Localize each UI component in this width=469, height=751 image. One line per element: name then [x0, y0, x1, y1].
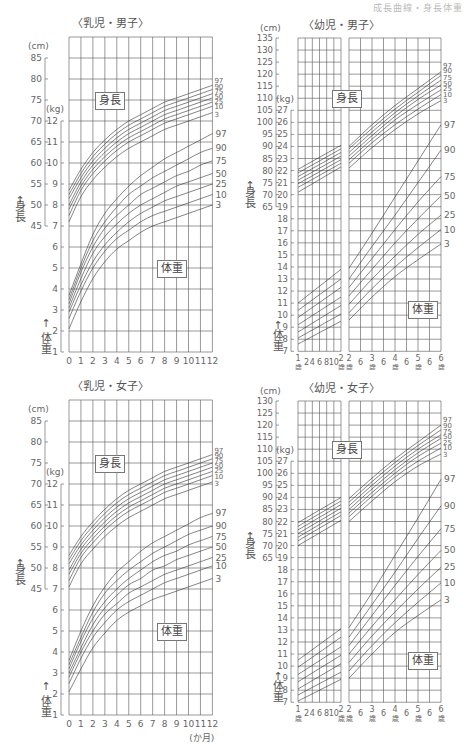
weight-percentile-label: 25	[215, 179, 226, 189]
weight-tick: 4	[52, 284, 58, 294]
weight-percentile-label: 10	[215, 561, 227, 571]
cm-unit-label: (cm)	[260, 23, 281, 33]
weight-percentile-label: 3	[215, 200, 221, 210]
height-tick: 125	[257, 408, 273, 418]
weight-tick: 22	[277, 166, 288, 176]
age-tick: 5	[415, 354, 420, 363]
height-tick: 90	[262, 492, 273, 502]
age-tick-unit: 歳	[295, 363, 302, 370]
height-tick: 100	[257, 117, 273, 127]
weight-axis-title: 体 重	[272, 681, 284, 703]
weight-tick: 13	[277, 274, 288, 284]
age-tick: 4	[392, 354, 397, 363]
weight-tick: 10	[47, 158, 59, 168]
weight-tick: 8	[52, 200, 58, 210]
weight-percentile-label: 10	[215, 190, 227, 200]
weight-tick: 15	[277, 601, 288, 611]
weight-percentile-label: 50	[444, 545, 456, 555]
weight-percentile-label: 10	[444, 225, 456, 235]
height-tick: 65	[262, 553, 273, 563]
months-unit-label: (か月)	[189, 733, 214, 743]
age-tick-unit: 歳	[346, 363, 353, 370]
month-tick: 5	[126, 356, 132, 366]
chart-title: 〈幼児・女子〉	[303, 379, 380, 395]
month-tick: 6	[358, 358, 363, 367]
weight-tick: 19	[277, 553, 288, 563]
month-tick: 8	[162, 356, 168, 366]
weight-tick: 11	[277, 649, 288, 659]
weight-tick: 19	[277, 202, 288, 212]
height-tick: 75	[31, 458, 42, 468]
month-tick: 12	[207, 719, 218, 729]
height-tick: 115	[257, 81, 273, 91]
weight-tick: 6	[52, 242, 58, 252]
weight-axis-title: 体 重	[40, 333, 52, 355]
height-tick: 80	[262, 517, 273, 527]
weight-tick: 10	[47, 521, 59, 531]
month-tick: 6	[427, 358, 432, 367]
height-tick: 70	[31, 116, 43, 126]
weight-tick: 12	[47, 479, 58, 489]
month-tick: 6	[381, 358, 386, 367]
height-tick: 105	[257, 105, 273, 115]
weight-percentile-label: 97	[444, 474, 455, 484]
height-tick: 85	[262, 154, 273, 164]
weight-tick: 25	[277, 480, 288, 490]
weight-axis-title: 体 重	[272, 330, 284, 352]
weight-label-box: 体重	[408, 652, 438, 670]
weight-tick: 1	[52, 347, 58, 357]
height-tick: 65	[262, 202, 273, 212]
month-tick: 6	[358, 709, 363, 718]
age-tick: 2	[346, 705, 351, 714]
month-tick: 9	[174, 356, 180, 366]
height-tick: 115	[257, 432, 273, 442]
weight-percentile-label: 75	[215, 156, 226, 166]
weight-tick: 25	[277, 129, 288, 139]
age-tick-unit: 歳	[369, 363, 376, 370]
height-tick: 75	[31, 95, 42, 105]
kg-unit-label: (kg)	[276, 445, 294, 455]
height-tick: 85	[262, 504, 273, 514]
weight-tick: 3	[52, 305, 58, 315]
weight-tick: 13	[277, 625, 288, 635]
weight-tick: 16	[277, 238, 288, 248]
kg-unit-label: (kg)	[46, 467, 64, 477]
chart-title: 〈幼児・男子〉	[303, 16, 380, 32]
weight-label-box: 体重	[157, 623, 187, 641]
weight-axis-title: 体 重	[40, 696, 52, 718]
weight-tick: 26	[277, 468, 288, 478]
height-tick: 135	[257, 33, 273, 43]
weight-tick: 27	[277, 105, 288, 115]
weight-tick: 17	[277, 226, 288, 236]
chart-infant-girls: 4550556065707580851234567891011120123456…	[0, 383, 235, 751]
height-tick: 120	[257, 420, 273, 430]
month-tick: 8	[162, 719, 168, 729]
age-tick-unit: 歳	[415, 363, 422, 370]
height-tick: 120	[257, 69, 273, 79]
height-tick: 130	[257, 396, 273, 406]
weight-tick: 9	[52, 179, 58, 189]
chart-title: 〈乳児・女子〉	[72, 377, 149, 393]
age-tick: 1	[295, 705, 300, 714]
weight-percentile-label: 90	[215, 521, 227, 531]
height-tick: 70	[262, 541, 273, 551]
age-tick: 5	[415, 705, 420, 714]
month-tick: 2	[304, 709, 309, 718]
month-tick: 4	[114, 719, 120, 729]
weight-tick: 11	[47, 500, 58, 510]
weight-tick: 6	[52, 605, 58, 615]
month-tick: 10	[183, 719, 195, 729]
page-header: 成長曲線・身長体重	[373, 1, 463, 14]
age-tick-unit: 歳	[338, 363, 345, 370]
weight-label-box: 体重	[157, 260, 187, 278]
weight-percentile-label: 25	[444, 210, 455, 220]
height-tick: 110	[257, 444, 273, 454]
height-axis-title: 身 長	[14, 564, 26, 586]
month-tick: 7	[150, 719, 156, 729]
height-tick: 65	[31, 500, 42, 510]
cm-unit-label: (cm)	[28, 404, 49, 414]
height-percentile-label: 3	[443, 97, 447, 105]
weight-percentile-label: 90	[444, 501, 456, 511]
weight-percentile-label: 97	[215, 129, 226, 139]
weight-tick: 21	[277, 529, 288, 539]
